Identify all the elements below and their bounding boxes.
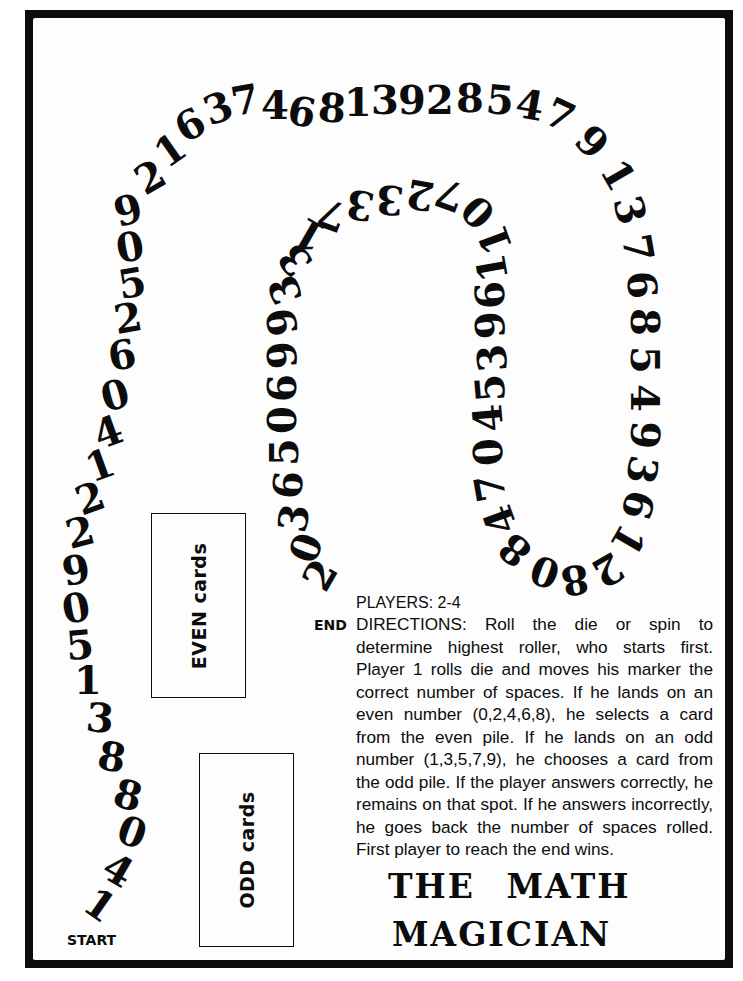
path-space[interactable]: 1 [343, 82, 373, 122]
path-space[interactable]: 9 [624, 418, 666, 451]
path-space[interactable]: 3 [471, 341, 513, 374]
game-title-line2: MAGICIAN [392, 915, 611, 954]
path-space[interactable]: 0 [467, 435, 509, 468]
path-space[interactable]: 8 [625, 307, 665, 337]
start-label: START [67, 932, 116, 948]
path-space[interactable]: 6 [262, 373, 302, 403]
path-space[interactable]: 8 [455, 78, 485, 118]
scalloped-edge-bottom [33, 952, 725, 962]
path-space[interactable]: 9 [397, 80, 427, 120]
path-space[interactable]: 6 [621, 268, 663, 301]
path-space[interactable]: 4 [467, 401, 509, 434]
path-space[interactable]: 5 [483, 79, 516, 121]
even-cards-label: EVEN cards [188, 542, 210, 669]
path-space[interactable]: 3 [370, 80, 400, 120]
path-space[interactable]: 5 [625, 345, 665, 375]
players-count: PLAYERS: 2-4 [356, 594, 461, 612]
game-title-line1: THE MATH [388, 867, 630, 906]
path-space[interactable]: 6 [267, 468, 309, 501]
path-space[interactable]: 3 [83, 697, 116, 739]
path-space[interactable]: 0 [262, 405, 302, 435]
odd-cards-label: ODD cards [236, 791, 258, 908]
end-label: END [314, 617, 347, 633]
scalloped-edge-right [717, 18, 727, 960]
path-space[interactable]: 9 [261, 338, 303, 371]
path-space[interactable]: 9 [469, 308, 511, 341]
path-space[interactable]: 5 [264, 437, 304, 467]
odd-cards-pile[interactable]: ODD cards [199, 753, 294, 947]
scalloped-edge-top [33, 16, 725, 26]
path-space[interactable]: 4 [625, 383, 665, 413]
path-space[interactable]: 5 [469, 371, 511, 404]
path-space[interactable]: 3 [373, 179, 406, 221]
path-space[interactable]: 2 [425, 80, 455, 120]
even-cards-pile[interactable]: EVEN cards [151, 513, 246, 698]
scalloped-edge-left [31, 18, 41, 960]
directions-text: DIRECTIONS: Roll the die or spin to dete… [356, 613, 713, 861]
